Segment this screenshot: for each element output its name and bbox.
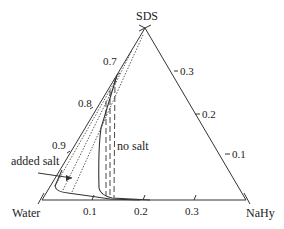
arrow-head-icon: [66, 175, 72, 181]
bottom-tick-label-03: 0.3: [185, 205, 199, 217]
left-tick-label-09: 0.9: [52, 139, 66, 151]
right-tick-label-03: 0.3: [180, 65, 194, 77]
left-tick-label-08: 0.8: [78, 97, 92, 109]
annotation-added-salt: added salt: [11, 154, 60, 168]
sds-vertex-mark: [139, 25, 151, 31]
right-tick-label-01: 0.1: [232, 148, 246, 160]
vertex-label-nahy: NaHy: [246, 206, 275, 220]
left-ticks: [67, 73, 120, 153]
bottom-tick-label-02: 0.2: [134, 205, 148, 217]
right-tick-label-02: 0.2: [202, 108, 216, 120]
ternary-diagram: SDS Water NaHy 0.7 0.8 0.9 0.3 0.2 0.1 0…: [0, 0, 284, 229]
bottom-tick-label-01: 0.1: [83, 205, 97, 217]
vertex-label-water: Water: [12, 206, 40, 220]
annotation-no-salt: no salt: [117, 139, 149, 153]
vertex-label-sds: SDS: [136, 9, 158, 23]
added-salt-boundary: [55, 170, 140, 200]
left-tick-label-07: 0.7: [103, 55, 117, 67]
